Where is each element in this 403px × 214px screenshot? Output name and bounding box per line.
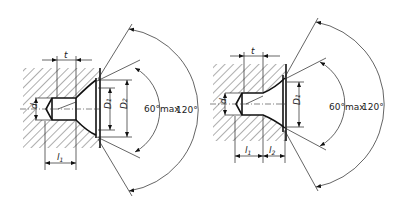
label-l1: l1	[245, 145, 251, 156]
center-drill-diagram: d t l1 D1 D2 60°max 120°	[0, 0, 403, 214]
label-D1: D1	[292, 94, 302, 105]
label-d: d	[218, 98, 228, 104]
label-l2: l2	[269, 145, 276, 156]
figure-left: d t l1 D1 D2 60°max 120°	[20, 24, 198, 196]
label-l1: l1	[57, 152, 63, 163]
angle-outer-label: 120°	[362, 102, 384, 112]
angle-inner-label: 60°max	[329, 102, 365, 112]
label-d: d	[29, 103, 39, 109]
figure-right: d t l1 l2 D1 60°max 120°	[210, 18, 384, 191]
angle-inner-label: 60°max	[144, 104, 180, 114]
angle-outer-label: 120°	[176, 105, 198, 115]
label-D2: D2	[119, 98, 129, 109]
label-t: t	[64, 50, 68, 60]
label-t: t	[251, 46, 255, 56]
label-D1: D1	[103, 98, 113, 109]
